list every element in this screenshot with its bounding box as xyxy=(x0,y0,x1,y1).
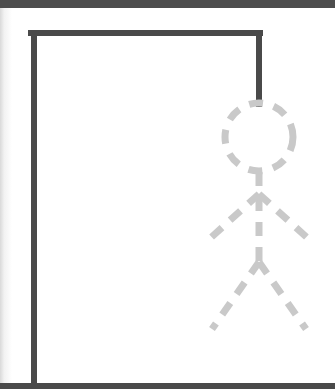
figure-head-icon xyxy=(225,103,293,171)
hangman-app xyxy=(0,0,335,389)
figure-arm-left xyxy=(205,194,259,243)
hangman-canvas xyxy=(0,0,335,389)
hangman-stick-figure xyxy=(205,103,313,329)
bottom-bar xyxy=(0,383,335,389)
figure-arm-right xyxy=(259,194,313,243)
gallows xyxy=(31,33,260,386)
figure-leg-right xyxy=(259,262,306,329)
figure-leg-left xyxy=(212,262,259,329)
